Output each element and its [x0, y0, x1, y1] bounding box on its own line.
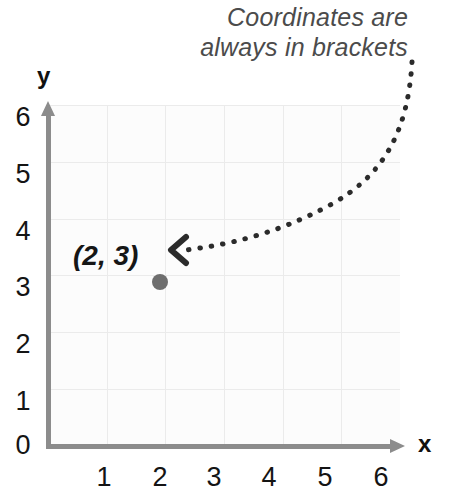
y-tick-label-4: 4	[8, 216, 38, 247]
coordinate-plane-figure: Coordinates are always in brackets y x 6…	[0, 0, 452, 504]
y-axis-title: y	[37, 62, 50, 90]
y-tick-label-6: 6	[8, 102, 38, 133]
x-axis-line	[46, 444, 395, 449]
y-tick-label-2: 2	[8, 329, 38, 360]
x-tick-label-2: 2	[145, 462, 175, 493]
y-axis-arrow-icon	[41, 101, 55, 116]
x-tick-label-1: 1	[89, 462, 119, 493]
annotation-callout-text: Coordinates are always in brackets	[108, 2, 408, 62]
y-tick-label-5: 5	[8, 159, 38, 190]
x-tick-label-3: 3	[199, 462, 229, 493]
x-axis-arrow-icon	[390, 439, 405, 453]
plot-grid-area	[48, 105, 400, 446]
y-tick-label-3: 3	[8, 272, 38, 303]
y-axis-line	[46, 113, 51, 449]
annotation-line-1: Coordinates are	[227, 3, 408, 31]
y-tick-label-0: 0	[8, 430, 38, 461]
plotted-point-label: (2, 3)	[73, 240, 138, 272]
paper-texture-overlay	[48, 105, 400, 446]
x-tick-label-5: 5	[310, 462, 340, 493]
x-tick-label-4: 4	[254, 462, 284, 493]
x-axis-title: x	[418, 430, 431, 458]
plotted-point-marker	[152, 274, 168, 290]
x-tick-label-6: 6	[366, 462, 396, 493]
y-tick-label-1: 1	[8, 386, 38, 417]
annotation-line-2: always in brackets	[108, 32, 408, 62]
